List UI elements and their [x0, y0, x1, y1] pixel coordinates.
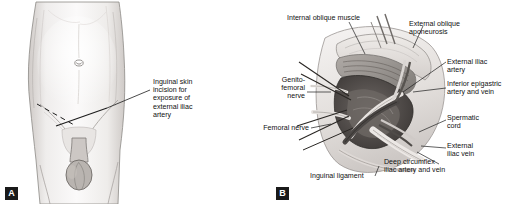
- genitofemoral-nerve-label: Genito- femoral nerve: [255, 76, 305, 101]
- external-oblique-aponeurosis-label: External oblique aponeurosis: [409, 20, 469, 36]
- inguinal-ligament-label: Inguinal ligament: [310, 172, 374, 180]
- inguinal-skin-incision-label: Inguinal skin incision for exposure of e…: [153, 78, 225, 119]
- panel-letter-a: A: [5, 187, 18, 200]
- panel-b: Internal oblique muscle External oblique…: [253, 0, 507, 204]
- femoral-nerve-label: Femoral nerve: [255, 124, 309, 132]
- spermatic-cord-label: Spermatic cord: [447, 114, 499, 130]
- deep-circumflex-iliac-artery-and-vein-label: Deep circumflex iliac artery and vein: [384, 158, 452, 174]
- internal-oblique-muscle-label: Internal oblique muscle: [287, 14, 383, 22]
- external-iliac-artery-label: External iliac artery: [447, 58, 507, 74]
- panel-letter-b: B: [276, 187, 289, 200]
- external-iliac-vein-label: External iliac vein: [447, 142, 499, 158]
- panel-a: Inguinal skin incision for exposure of e…: [0, 0, 253, 204]
- figure-container: Inguinal skin incision for exposure of e…: [0, 0, 507, 204]
- inferior-epigastric-artery-and-vein-label: Inferior epigastric artery and vein: [447, 80, 505, 96]
